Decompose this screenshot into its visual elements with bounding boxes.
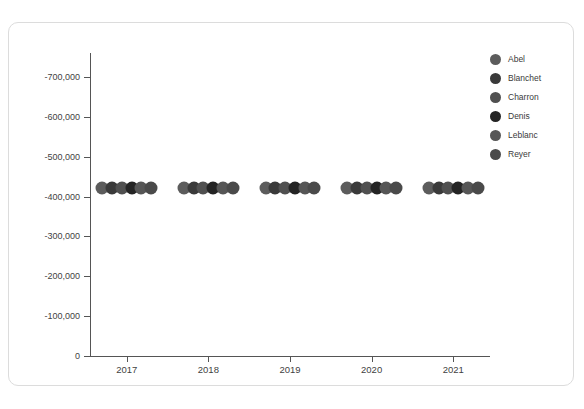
y-axis-tick (84, 197, 90, 198)
legend-item-label: Abel (508, 55, 525, 64)
legend-item[interactable]: Reyer (490, 145, 576, 163)
x-axis-tick-label: 2021 (443, 364, 464, 375)
legend-item-label: Denis (508, 112, 530, 121)
y-axis-tick-label: 0 (14, 351, 80, 361)
legend-swatch-circle-icon (490, 130, 501, 141)
y-axis-tick (84, 356, 90, 357)
x-axis-tick (127, 356, 128, 362)
y-axis-tick-label: -400,000 (14, 192, 80, 202)
scatter-point[interactable] (308, 181, 321, 194)
y-axis-tick (84, 236, 90, 237)
legend-swatch-circle-icon (490, 54, 501, 65)
y-axis-tick (84, 117, 90, 118)
y-axis-line (90, 53, 91, 356)
y-axis-tick (84, 276, 90, 277)
scatter-point[interactable] (390, 181, 403, 194)
legend-item[interactable]: Charron (490, 88, 576, 106)
legend-swatch-circle-icon (490, 73, 501, 84)
y-axis-tick-label: -600,000 (14, 112, 80, 122)
legend-item[interactable]: Leblanc (490, 126, 576, 144)
x-axis-tick-label: 2018 (198, 364, 219, 375)
y-axis-tick-label: -700,000 (14, 72, 80, 82)
y-axis-tick-label: -500,000 (14, 152, 80, 162)
x-axis-tick-label: 2020 (361, 364, 382, 375)
x-axis-tick (208, 356, 209, 362)
x-axis-tick (290, 356, 291, 362)
legend-item-label: Reyer (508, 150, 531, 159)
legend-swatch-circle-icon (490, 111, 501, 122)
legend-swatch-circle-icon (490, 149, 501, 160)
legend-item[interactable]: Abel (490, 50, 576, 68)
legend-item-label: Charron (508, 93, 539, 102)
y-axis-tick-label: -200,000 (14, 271, 80, 281)
chart-legend: AbelBlanchetCharronDenisLeblancReyer (490, 50, 576, 164)
scatter-point[interactable] (226, 181, 239, 194)
y-axis-tick (84, 157, 90, 158)
legend-item[interactable]: Blanchet (490, 69, 576, 87)
x-axis-tick (372, 356, 373, 362)
y-axis-tick-label: -300,000 (14, 231, 80, 241)
legend-item-label: Blanchet (508, 74, 541, 83)
x-axis-tick (453, 356, 454, 362)
legend-item-label: Leblanc (508, 131, 538, 140)
legend-swatch-circle-icon (490, 92, 501, 103)
x-axis-tick-label: 2019 (279, 364, 300, 375)
y-axis-tick (84, 77, 90, 78)
scatter-point[interactable] (471, 181, 484, 194)
y-axis-tick-label: -100,000 (14, 311, 80, 321)
y-axis-tick (84, 316, 90, 317)
legend-item[interactable]: Denis (490, 107, 576, 125)
x-axis-tick-label: 2017 (116, 364, 137, 375)
scatter-point[interactable] (145, 181, 158, 194)
